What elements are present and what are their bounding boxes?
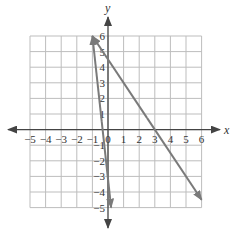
x-tick-label: 0	[105, 133, 111, 145]
x-axis-label: x	[223, 123, 230, 137]
axes	[8, 17, 220, 228]
y-tick-label: −2	[93, 155, 105, 167]
grid	[30, 36, 202, 208]
y-tick-label: 6	[100, 30, 106, 42]
tick-labels: −5−4−3−2−10123456654321−1−2−3−4−5	[24, 30, 205, 214]
x-tick-label: 5	[183, 133, 189, 145]
y-tick-label: −4	[93, 186, 105, 198]
x-tick-label: 6	[199, 133, 205, 145]
y-axis-label: y	[104, 1, 111, 15]
x-tick-label: −5	[24, 133, 36, 145]
x-tick-label: 4	[168, 133, 174, 145]
x-tick-label: −2	[71, 133, 83, 145]
y-tick-label: 3	[100, 77, 106, 89]
x-tick-label: −3	[55, 133, 67, 145]
y-tick-label: 4	[100, 61, 106, 73]
x-tick-label: 1	[121, 133, 127, 145]
y-tick-label: −3	[93, 170, 105, 182]
plotted-lines	[92, 36, 201, 208]
coordinate-plane: −5−4−3−2−10123456654321−1−2−3−4−5 x y	[0, 0, 237, 237]
x-tick-label: 2	[136, 133, 142, 145]
x-tick-label: −4	[40, 133, 52, 145]
y-tick-label: −5	[93, 202, 105, 214]
